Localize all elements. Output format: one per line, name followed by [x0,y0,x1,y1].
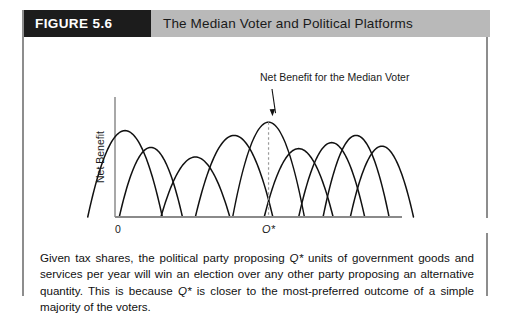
caption-qstar-1: Q* [290,251,304,264]
figure-header: FIGURE 5.6 The Median Voter and Politica… [24,10,490,37]
below-axis-mask [24,218,490,233]
voter-curve [195,135,272,217]
x-axis-origin-label: 0 [115,223,121,233]
y-axis-label: Net Benefit [94,131,106,183]
annotation-arrow-icon [270,89,276,116]
figure-number-label: FIGURE 5.6 [24,10,151,37]
voter-curve [323,135,389,217]
net-benefit-chart: Net Benefit for the Median Voter Net Ben… [24,37,490,233]
figure-box: FIGURE 5.6 The Median Voter and Politica… [22,10,488,296]
caption-qstar-2: Q* [178,284,192,297]
figure-title: The Median Voter and Political Platforms [151,10,490,37]
figure-caption: Given tax shares, the political party pr… [40,250,474,316]
chart-area: Net Benefit for the Median Voter Net Ben… [24,37,490,233]
voter-curve [350,146,413,217]
voter-curve [161,157,230,217]
x-axis-qstar-label: Q* [262,223,276,233]
median-voter-annotation: Net Benefit for the Median Voter [260,71,410,83]
caption-part-1: Given tax shares, the political party pr… [40,251,290,264]
voter-curve [264,149,333,217]
voter-net-benefit-curves [88,122,414,217]
